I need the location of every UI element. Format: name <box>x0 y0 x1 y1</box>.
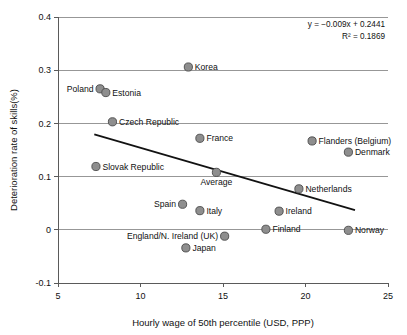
point-label-12: Ireland <box>286 206 312 216</box>
x-tick-label-0: 5 <box>55 291 60 301</box>
point-label-1: Poland <box>67 84 94 94</box>
x-axis-title: Hourly wage of 50th percentile (USD, PPP… <box>132 317 314 328</box>
data-point-korea: Korea <box>184 62 218 72</box>
data-point-japan: Japan <box>182 243 216 253</box>
data-point-norway: Norway <box>344 225 384 235</box>
point-label-11: Italy <box>206 206 222 216</box>
data-point-estonia: Estonia <box>102 88 141 98</box>
point-marker-10 <box>178 200 186 208</box>
x-tick-label-3: 20 <box>300 291 310 301</box>
point-marker-2 <box>102 88 110 96</box>
scatter-chart: 0.40.30.20.10-0.1 510152025 KoreaPolandE… <box>0 0 407 335</box>
data-point-ireland: Ireland <box>275 206 312 216</box>
chart-background <box>0 0 407 335</box>
point-label-7: Slovak Republic <box>102 162 164 172</box>
point-label-5: Flanders (Belgium) <box>319 136 392 146</box>
point-marker-6 <box>344 148 352 156</box>
point-label-16: Japan <box>192 243 216 253</box>
data-point-spain: Spain <box>154 199 187 209</box>
point-marker-3 <box>108 118 116 126</box>
y-axis-title: Deterioration rate of skills(%) <box>8 89 19 211</box>
point-marker-8 <box>212 168 220 176</box>
data-point-italy: Italy <box>196 206 223 216</box>
data-point-slovak-republic: Slovak Republic <box>92 162 165 172</box>
point-label-14: Norway <box>355 225 385 235</box>
point-marker-14 <box>344 226 352 234</box>
regression-equation: y = −0.009x + 0.2441 <box>308 20 386 29</box>
point-label-8: Average <box>200 177 232 187</box>
data-point-czech-republic: Czech Republic <box>108 117 179 127</box>
y-tick-label-1: 0.3 <box>38 65 51 75</box>
r-squared-value: R² = 0.1869 <box>342 32 385 41</box>
data-point-france: France <box>196 133 234 143</box>
point-marker-0 <box>184 63 192 71</box>
point-marker-4 <box>196 134 204 142</box>
y-tick-label-3: 0.1 <box>38 172 51 182</box>
point-marker-11 <box>196 207 204 215</box>
point-marker-13 <box>262 225 270 233</box>
point-label-15: England/N. Ireland (UK) <box>127 231 218 241</box>
x-tick-label-2: 15 <box>218 291 228 301</box>
x-tick-label-1: 10 <box>135 291 145 301</box>
y-tick-label-5: -0.1 <box>35 278 51 288</box>
point-label-10: Spain <box>154 199 176 209</box>
point-marker-15 <box>221 232 229 240</box>
y-tick-label-0: 0.4 <box>38 12 51 22</box>
point-marker-16 <box>182 244 190 252</box>
data-point-finland: Finland <box>262 224 301 234</box>
data-point-flanders-belgium: Flanders (Belgium) <box>308 136 391 146</box>
point-label-2: Estonia <box>112 88 141 98</box>
point-label-6: Denmark <box>355 147 391 157</box>
y-tick-label-4: 0 <box>46 225 51 235</box>
point-label-13: Finland <box>272 224 300 234</box>
x-tick-label-4: 25 <box>383 291 393 301</box>
data-point-poland: Poland <box>67 84 104 94</box>
chart-canvas: 0.40.30.20.10-0.1 510152025 KoreaPolandE… <box>0 0 407 335</box>
point-label-9: Netherlands <box>305 184 351 194</box>
point-marker-7 <box>92 162 100 170</box>
data-point-england-n-ireland-uk: England/N. Ireland (UK) <box>127 231 229 241</box>
point-marker-9 <box>295 185 303 193</box>
point-marker-5 <box>308 137 316 145</box>
point-marker-12 <box>275 207 283 215</box>
point-label-4: France <box>206 133 233 143</box>
y-tick-label-2: 0.2 <box>38 119 51 129</box>
point-label-0: Korea <box>195 62 218 72</box>
point-label-3: Czech Republic <box>119 117 180 127</box>
